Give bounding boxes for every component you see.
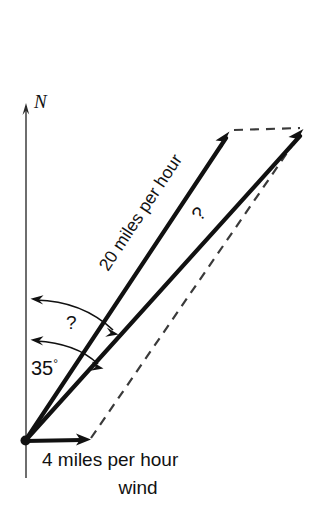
heading-angle-value: 35 [31, 357, 53, 379]
vector-diagram: N 20 miles per hour ? [0, 0, 324, 519]
origin-point-marker [21, 436, 31, 446]
heading-angle-label: 35° [31, 357, 58, 379]
construction-lines [91, 128, 300, 438]
parallelogram-side-dashed-line [91, 134, 300, 438]
airspeed-vector-arrowhead-icon [216, 132, 230, 149]
course-angle-label: ? [66, 312, 77, 333]
airspeed-vector-line [25, 138, 226, 441]
heading-angle-degree-symbol: ° [53, 357, 58, 371]
course-angle-arc: ? [31, 295, 119, 337]
airspeed-vector: 20 miles per hour [25, 132, 230, 442]
wind-vector-line [25, 440, 82, 441]
wind-caption-line2: wind [117, 477, 157, 498]
parallelogram-top-dashed-line [234, 128, 300, 130]
wind-vector-caption: 4 miles per hour wind [42, 449, 179, 498]
vector-diagram-canvas: N 20 miles per hour ? [0, 0, 324, 519]
north-label: N [33, 91, 48, 112]
wind-caption-line1: 4 miles per hour [42, 449, 179, 470]
airspeed-vector-label: 20 miles per hour [95, 150, 186, 274]
resultant-vector-label: ? [187, 203, 210, 225]
wind-vector [25, 434, 91, 446]
